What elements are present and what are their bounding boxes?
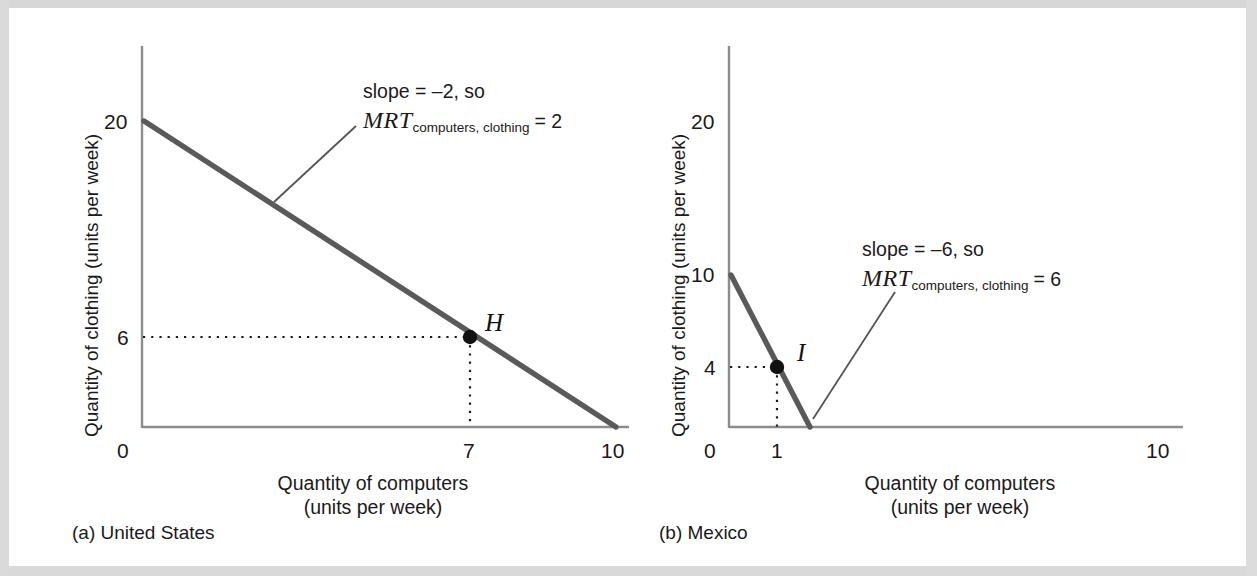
mexico-x-tick-1: 1 xyxy=(771,440,783,461)
mexico-point-i-label: I xyxy=(797,340,805,365)
figure-root: Quantity of clothing (units per week) 20… xyxy=(0,0,1257,576)
us-slope-annotation: slope = –2, so MRTcomputers, clothing= 2 xyxy=(363,80,562,135)
mexico-panel-caption: (b) Mexico xyxy=(659,522,748,544)
us-mrt-symbol: MRT xyxy=(363,107,413,133)
panel-united-states: Quantity of clothing (units per week) 20… xyxy=(0,0,630,576)
us-mrt-subscript: computers, clothing xyxy=(413,120,530,135)
us-mrt-expression: MRTcomputers, clothing= 2 xyxy=(363,106,562,135)
mexico-mrt-subscript: computers, clothing xyxy=(912,278,1029,293)
mexico-y-tick-10: 10 xyxy=(691,264,714,285)
us-x-tick-10: 10 xyxy=(601,440,624,461)
mexico-y-axis-title: Quantity of clothing (units per week) xyxy=(669,134,688,437)
mexico-slope-annotation-line1: slope = –6, so xyxy=(862,238,1061,262)
us-ppf-line xyxy=(144,121,616,427)
us-point-h-marker xyxy=(463,330,477,344)
us-x-axis-title-line2: (units per week) xyxy=(304,496,443,518)
us-y-tick-20: 20 xyxy=(104,111,127,132)
us-annotation-leader-line xyxy=(274,126,356,202)
us-origin-label: 0 xyxy=(117,440,129,461)
us-slope-annotation-line1: slope = –2, so xyxy=(363,80,562,104)
mexico-x-tick-10: 10 xyxy=(1146,440,1169,461)
us-x-axis-title: Quantity of computers (units per week) xyxy=(233,472,513,520)
panel-mexico: Quantity of clothing (units per week) 20… xyxy=(630,0,1257,576)
us-mrt-value: = 2 xyxy=(535,110,563,132)
mexico-x-axis-title-line2: (units per week) xyxy=(891,496,1030,518)
us-y-tick-6: 6 xyxy=(117,327,129,348)
us-x-axis-title-line1: Quantity of computers xyxy=(278,472,469,494)
mexico-mrt-symbol: MRT xyxy=(862,265,912,291)
mexico-x-axis-title: Quantity of computers (units per week) xyxy=(820,472,1100,520)
mexico-point-i-marker xyxy=(770,360,784,374)
us-x-tick-7: 7 xyxy=(463,440,475,461)
mexico-origin-label: 0 xyxy=(704,440,716,461)
us-point-h-label: H xyxy=(485,310,503,335)
mexico-y-tick-20: 20 xyxy=(691,111,714,132)
mexico-mrt-value: = 6 xyxy=(1034,268,1062,290)
mexico-annotation-leader-line xyxy=(813,292,895,419)
mexico-slope-annotation: slope = –6, so MRTcomputers, clothing= 6 xyxy=(862,238,1061,293)
mexico-mrt-expression: MRTcomputers, clothing= 6 xyxy=(862,264,1061,293)
mexico-x-axis-title-line1: Quantity of computers xyxy=(865,472,1056,494)
mexico-y-tick-4: 4 xyxy=(704,357,716,378)
us-y-axis-title: Quantity of clothing (units per week) xyxy=(82,134,101,437)
us-panel-caption: (a) United States xyxy=(72,522,215,544)
